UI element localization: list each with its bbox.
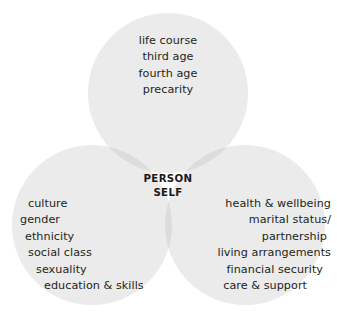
right-item-3: living arrangements	[185, 245, 335, 261]
center-label: PERSON SELF	[118, 172, 218, 199]
left-circle-labels: culture gender ethnicity social class se…	[8, 196, 168, 294]
left-item-5: education & skills	[8, 278, 168, 294]
center-label-line-1: PERSON	[118, 172, 218, 186]
right-circle-labels: health & wellbeing marital status/ partn…	[185, 196, 335, 294]
top-item-3: precarity	[96, 82, 240, 98]
center-label-line-2: SELF	[118, 186, 218, 200]
left-item-2: ethnicity	[8, 229, 168, 245]
right-item-5: care & support	[185, 278, 335, 294]
right-item-2: partnership	[185, 229, 335, 245]
top-item-1: third age	[96, 49, 240, 65]
venn-diagram: life course third age fourth age precari…	[0, 0, 337, 334]
top-item-2: fourth age	[96, 66, 240, 82]
top-item-0: life course	[96, 33, 240, 49]
right-item-1: marital status/	[185, 212, 335, 228]
left-item-1: gender	[8, 212, 168, 228]
left-item-4: sexuality	[8, 262, 168, 278]
right-item-4: financial security	[185, 262, 335, 278]
top-circle-labels: life course third age fourth age precari…	[96, 33, 240, 99]
left-item-3: social class	[8, 245, 168, 261]
